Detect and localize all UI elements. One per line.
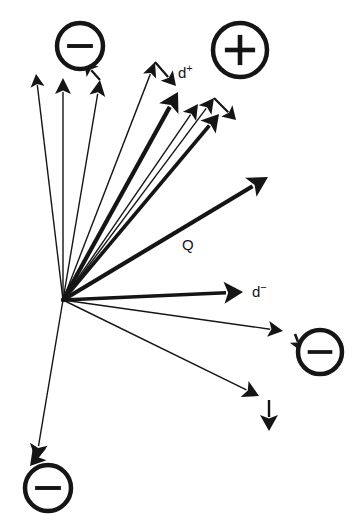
charge-vector-diagram: d+Qd− — [0, 0, 354, 527]
vector-hook-lower-down — [260, 400, 278, 431]
vector-origin-node — [61, 298, 65, 302]
vector-q — [63, 177, 268, 300]
vector-cluster-a-head — [183, 104, 198, 121]
vector-cluster-a — [63, 104, 198, 300]
diagram-canvas: d+Qd− — [0, 0, 354, 527]
vector-hook-lower-down-head — [260, 415, 278, 431]
vector-hook-d-plus-shaft — [155, 62, 168, 77]
vector-to-d-plus-thin-shaft — [63, 74, 150, 300]
vector-lower-right — [63, 300, 259, 397]
charge-minus-right — [298, 330, 342, 374]
vector-down-left-shaft — [38, 300, 63, 446]
vector-to-d-plus-thin — [63, 62, 156, 300]
vector-cluster-c-shaft — [63, 125, 209, 300]
vector-hook-top-left-shaft — [91, 70, 100, 80]
charge-minus-right-horizontal-bar — [308, 350, 333, 354]
label-q-base: Q — [182, 236, 194, 253]
vector-cluster-b — [63, 98, 214, 300]
charge-minus-bottom-left — [25, 465, 71, 511]
vector-cluster-b-head — [199, 98, 214, 115]
charge-plus-top-right-vertical-bar — [238, 35, 243, 65]
vector-up-left — [31, 74, 63, 300]
vector-to-minus-right — [63, 300, 283, 337]
vector-hook-minus-right-shaft — [295, 334, 298, 342]
vector-d-minus-shaft — [63, 293, 226, 300]
vector-down-left — [30, 300, 63, 461]
label-d-plus-base: d — [178, 64, 186, 81]
vector-hook-d-plus — [155, 62, 176, 86]
charge-minus-top-left-horizontal-bar — [67, 44, 93, 48]
vector-up-left-shaft — [37, 85, 63, 300]
label-q: Q — [182, 236, 194, 253]
label-d-minus: d− — [252, 281, 267, 300]
vector-d-minus-head — [224, 282, 243, 304]
vector-cluster-a-shaft — [63, 115, 191, 300]
vector-up-head — [55, 78, 71, 94]
vector-hook-cluster-shaft — [214, 98, 228, 112]
vector-cluster-b-shaft — [63, 108, 206, 300]
charge-plus-top-right — [213, 23, 267, 77]
label-d-plus-superscript: + — [186, 62, 192, 74]
label-d-minus-superscript: − — [260, 281, 266, 293]
vector-cluster-c — [63, 114, 219, 300]
vector-up-right-near — [63, 80, 105, 300]
label-d-minus-base: d — [252, 283, 260, 300]
charge-minus-top-left — [57, 23, 103, 69]
charge-minus-bottom-left-horizontal-bar — [35, 486, 61, 490]
label-d-plus: d+ — [178, 62, 193, 81]
